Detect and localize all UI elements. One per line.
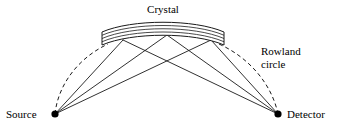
crystal-label: Crystal bbox=[147, 3, 179, 15]
detector-point-dot bbox=[274, 110, 281, 117]
rowland-label-line-1: Rowland bbox=[261, 45, 301, 57]
source-point-dot bbox=[51, 110, 58, 117]
diagram-canvas: Crystal Source Detector Rowland circle bbox=[0, 0, 339, 128]
rowland-label-line-2: circle bbox=[261, 58, 286, 70]
source-label: Source bbox=[6, 108, 37, 120]
rowland-circle-diagram: Crystal Source Detector Rowland circle bbox=[0, 0, 339, 128]
detector-label: Detector bbox=[287, 108, 325, 120]
